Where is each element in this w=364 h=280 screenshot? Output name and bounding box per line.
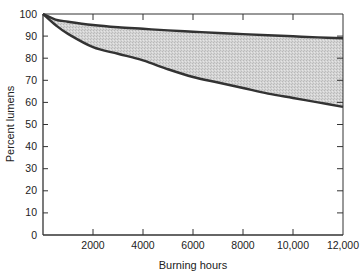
x-tick-label: 6000 bbox=[181, 239, 205, 251]
x-tick-label: 8000 bbox=[231, 239, 255, 251]
y-tick-label: 30 bbox=[25, 162, 37, 174]
fill-between-area bbox=[43, 14, 343, 107]
y-tick-label: 10 bbox=[25, 206, 37, 218]
x-tick-label: 4000 bbox=[131, 239, 155, 251]
y-tick-label: 0 bbox=[31, 229, 37, 241]
y-tick-label: 40 bbox=[25, 140, 37, 152]
y-tick-label: 80 bbox=[25, 52, 37, 64]
y-tick-label: 100 bbox=[19, 8, 37, 20]
y-tick-label: 20 bbox=[25, 184, 37, 196]
y-tick-label: 90 bbox=[25, 30, 37, 42]
y-tick-label: 50 bbox=[25, 118, 37, 130]
lumen-depreciation-chart: 0102030405060708090100200040006000800010… bbox=[0, 0, 364, 280]
x-tick-label: 2000 bbox=[81, 239, 105, 251]
x-tick-label: 10,000 bbox=[277, 239, 309, 251]
y-axis-title: Percent lumens bbox=[4, 85, 16, 162]
y-tick-label: 60 bbox=[25, 96, 37, 108]
y-tick-label: 70 bbox=[25, 74, 37, 86]
x-axis-title: Burning hours bbox=[159, 259, 228, 271]
x-tick-label: 12,000 bbox=[327, 239, 359, 251]
